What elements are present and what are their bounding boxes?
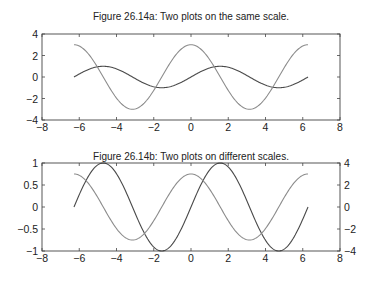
x-tick-label: 0 (188, 252, 194, 264)
plot-b-lines (74, 163, 308, 251)
x-tick-label: 6 (300, 121, 306, 133)
x-tick-label: −4 (111, 121, 123, 133)
plot-b-ticks: −8−6−4−202468−1−0.500.51−4−2024 (17, 157, 356, 264)
line-sinx (74, 66, 308, 88)
plot-a-lines (74, 45, 308, 110)
y-tick-label: 4 (32, 28, 38, 40)
x-tick-label: 0 (188, 121, 194, 133)
y-tick-label: 2 (32, 50, 38, 62)
x-tick-label: 8 (337, 121, 343, 133)
x-tick-label: −2 (148, 121, 160, 133)
x-tick-label: 6 (300, 252, 306, 264)
plot-a: Figure 26.14a: Two plots on the same sca… (26, 11, 343, 133)
x-tick-label: −6 (73, 121, 85, 133)
plot-b-title: Figure 26.14b: Two plots on different sc… (93, 151, 289, 162)
y-right-tick-label: −2 (344, 223, 356, 235)
x-tick-label: 2 (225, 252, 231, 264)
x-tick-label: 4 (263, 252, 269, 264)
y-tick-label: −4 (26, 114, 38, 126)
x-tick-label: 8 (337, 252, 343, 264)
y-right-tick-label: 0 (344, 201, 350, 213)
y-right-tick-label: 4 (344, 157, 350, 169)
x-tick-label: −4 (111, 252, 123, 264)
x-tick-label: −2 (148, 252, 160, 264)
x-tick-label: 2 (225, 121, 231, 133)
figure: Figure 26.14a: Two plots on the same sca… (0, 0, 370, 281)
y-tick-label: −1 (26, 245, 38, 257)
y-right-tick-label: 2 (344, 179, 350, 191)
y-tick-label: −2 (26, 93, 38, 105)
y-tick-label: 0.5 (23, 179, 38, 191)
x-tick-label: −6 (73, 252, 85, 264)
y-tick-label: −0.5 (17, 223, 38, 235)
plot-a-title: Figure 26.14a: Two plots on the same sca… (93, 11, 289, 22)
plot-b: Figure 26.14b: Two plots on different sc… (17, 151, 356, 264)
y-tick-label: 1 (32, 157, 38, 169)
y-tick-label: 0 (32, 201, 38, 213)
x-tick-label: 4 (263, 121, 269, 133)
line-sinx (74, 163, 308, 251)
y-tick-label: 0 (32, 71, 38, 83)
y-right-tick-label: −4 (344, 245, 356, 257)
